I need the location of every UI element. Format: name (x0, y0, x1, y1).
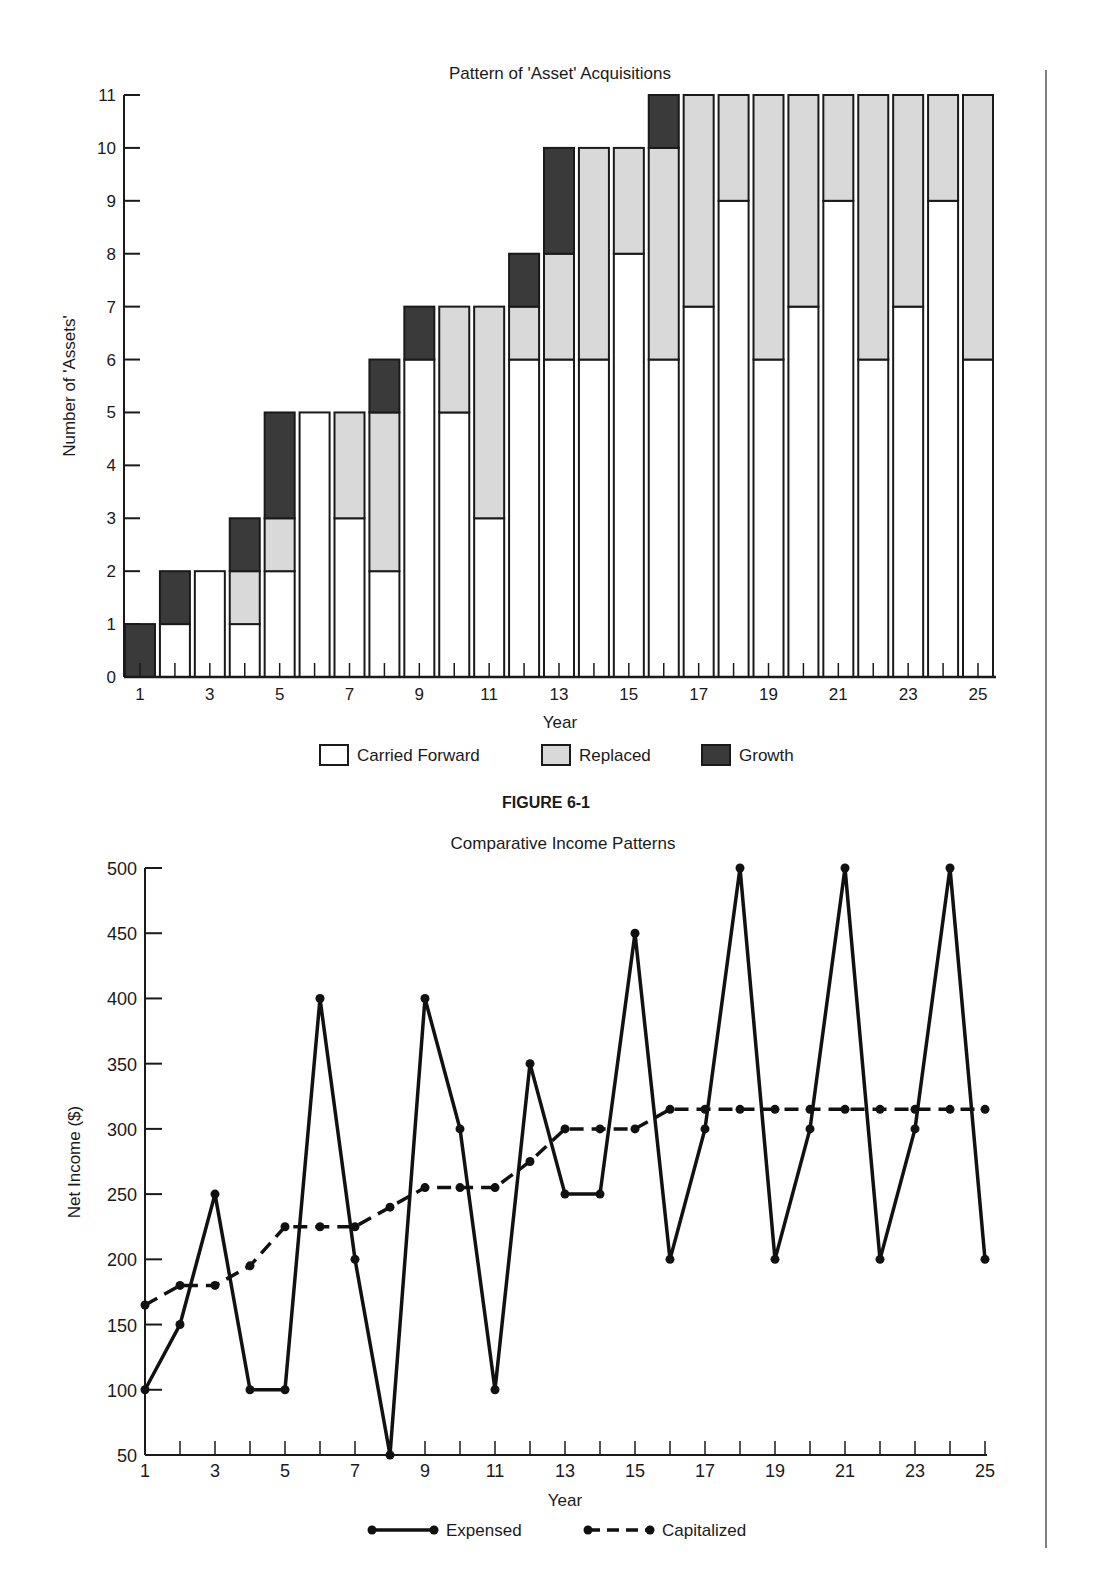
bar-year-6 (300, 412, 330, 677)
data-point (806, 1124, 815, 1133)
y-tick-label: 8 (107, 245, 116, 264)
x-tick-label: 25 (975, 1461, 995, 1481)
y-tick-label: 1 (107, 615, 116, 634)
legend-marker (646, 1526, 655, 1535)
data-point (246, 1261, 255, 1270)
data-point (526, 1059, 535, 1068)
data-point (701, 1124, 710, 1133)
data-point (736, 1105, 745, 1114)
legend-marker (430, 1526, 439, 1535)
bar-chart-asset-acquisitions: Pattern of 'Asset' Acquisitions Number o… (60, 64, 996, 765)
bar-segment-growth (160, 571, 190, 624)
bar-segment-carried-forward (300, 412, 330, 677)
y-tick-label: 250 (107, 1185, 137, 1205)
bar-year-15 (614, 148, 644, 677)
y-tick-label: 400 (107, 989, 137, 1009)
line-chart-axes: 5010015020025030035040045050013579111315… (107, 859, 995, 1481)
data-point (386, 1451, 395, 1460)
y-tick-label: 0 (107, 668, 116, 687)
x-tick-label: 25 (969, 685, 988, 704)
bar-segment-replaced (335, 412, 365, 518)
bar-chart-x-axis-label: Year (543, 713, 578, 732)
bar-segment-replaced (858, 95, 888, 360)
bar-year-17 (684, 95, 714, 677)
x-tick-label: 5 (280, 1461, 290, 1481)
legend-marker (584, 1526, 593, 1535)
x-tick-label: 7 (350, 1461, 360, 1481)
bar-segment-carried-forward (474, 518, 504, 677)
bar-segment-replaced (369, 412, 399, 571)
bar-year-14 (579, 148, 609, 677)
x-tick-label: 11 (486, 1461, 505, 1481)
x-tick-label: 13 (555, 1461, 575, 1481)
data-point (771, 1105, 780, 1114)
legend-item-carried-forward: Carried Forward (320, 745, 480, 765)
x-tick-label: 21 (829, 685, 848, 704)
y-tick-label: 2 (107, 562, 116, 581)
x-tick-label: 23 (899, 685, 918, 704)
x-tick-label: 19 (765, 1461, 785, 1481)
data-point (771, 1255, 780, 1264)
bar-segment-replaced (788, 95, 818, 307)
data-point (911, 1124, 920, 1133)
figure-caption: FIGURE 6-1 (502, 794, 590, 811)
bar-segment-replaced (474, 307, 504, 519)
x-tick-label: 13 (550, 685, 569, 704)
data-point (281, 1385, 290, 1394)
series-expensed (141, 864, 990, 1460)
bar-segment-growth (649, 95, 679, 148)
y-tick-label: 450 (107, 924, 137, 944)
y-tick-label: 11 (98, 86, 116, 105)
bar-segment-growth (230, 518, 260, 571)
x-tick-label: 3 (210, 1461, 220, 1481)
y-tick-label: 4 (107, 456, 116, 475)
bar-year-10 (439, 307, 469, 677)
bar-segment-carried-forward (858, 360, 888, 677)
data-point (666, 1105, 675, 1114)
bar-segment-growth (265, 412, 295, 518)
data-point (946, 864, 955, 873)
x-tick-label: 11 (480, 685, 498, 704)
data-point (561, 1190, 570, 1199)
x-tick-label: 17 (689, 685, 708, 704)
y-tick-label: 7 (107, 298, 116, 317)
y-tick-label: 50 (117, 1446, 137, 1466)
bar-segment-replaced (754, 95, 784, 360)
series-line (145, 1109, 985, 1305)
bar-segment-carried-forward (195, 571, 225, 677)
series-line (145, 868, 985, 1455)
y-tick-label: 150 (107, 1316, 137, 1336)
y-tick-label: 300 (107, 1120, 137, 1140)
data-point (456, 1124, 465, 1133)
bar-year-21 (823, 95, 853, 677)
x-tick-label: 19 (759, 685, 778, 704)
legend-label: Carried Forward (357, 746, 480, 765)
bar-year-13 (544, 148, 574, 677)
bar-segment-replaced (230, 571, 260, 624)
line-chart-y-axis-label: Net Income ($) (65, 1106, 84, 1218)
data-point (876, 1255, 885, 1264)
y-tick-label: 9 (107, 192, 116, 211)
bar-segment-carried-forward (893, 307, 923, 677)
legend-item-growth: Growth (702, 745, 794, 765)
bar-year-4 (230, 518, 260, 677)
data-point (421, 994, 430, 1003)
bar-segment-replaced (928, 95, 958, 201)
data-point (491, 1183, 500, 1192)
bar-segment-replaced (893, 95, 923, 307)
legend-label: Replaced (579, 746, 651, 765)
line-chart-income-patterns: Comparative Income Patterns Net Income (… (65, 834, 995, 1540)
data-point (736, 864, 745, 873)
data-point (876, 1105, 885, 1114)
data-point (211, 1281, 220, 1290)
bar-chart-y-axis-label: Number of 'Assets' (60, 315, 79, 457)
x-tick-label: 23 (905, 1461, 925, 1481)
bar-segment-replaced (614, 148, 644, 254)
data-point (246, 1385, 255, 1394)
legend-label: Growth (739, 746, 794, 765)
x-tick-label: 7 (345, 685, 354, 704)
y-tick-label: 200 (107, 1250, 137, 1270)
bar-segment-carried-forward (265, 571, 295, 677)
x-tick-label: 1 (140, 1461, 150, 1481)
y-tick-label: 3 (107, 509, 116, 528)
